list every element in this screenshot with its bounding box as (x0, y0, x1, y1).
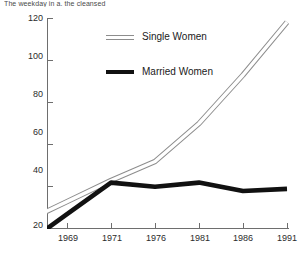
y-axis-ticks (48, 19, 54, 229)
x-tick-1986: 1986 (223, 233, 263, 243)
legend-label-married-women: Married Women (142, 65, 213, 78)
chart-figure: The weekday in a. the cleansed 120 100 8… (0, 0, 303, 259)
legend-swatch-single-women-icon (106, 35, 134, 40)
x-tick-1969: 1969 (48, 233, 88, 243)
x-tick-1991: 1991 (267, 233, 303, 243)
x-tick-1981: 1981 (180, 233, 220, 243)
x-tick-1976: 1976 (136, 233, 176, 243)
x-axis-ticks (68, 223, 288, 229)
y-tick-20: 20 (17, 221, 43, 230)
y-tick-40: 40 (17, 166, 43, 175)
legend-item-single-women: Single Women (106, 30, 236, 44)
x-tick-1971: 1971 (92, 233, 132, 243)
y-tick-120: 120 (17, 14, 43, 23)
series-married-women (47, 183, 287, 229)
y-tick-100: 100 (17, 52, 43, 61)
chart-legend: Single Women Married Women (106, 30, 236, 100)
y-axis-labels: 120 100 80 60 40 20 (14, 0, 43, 259)
y-tick-80: 80 (17, 90, 43, 99)
legend-label-single-women: Single Women (142, 30, 207, 43)
x-axis-labels: 1969 1971 1976 1981 1986 1991 (0, 233, 303, 249)
legend-item-married-women: Married Women (106, 65, 236, 79)
legend-swatch-married-women-icon (106, 70, 134, 74)
y-tick-60: 60 (17, 128, 43, 137)
